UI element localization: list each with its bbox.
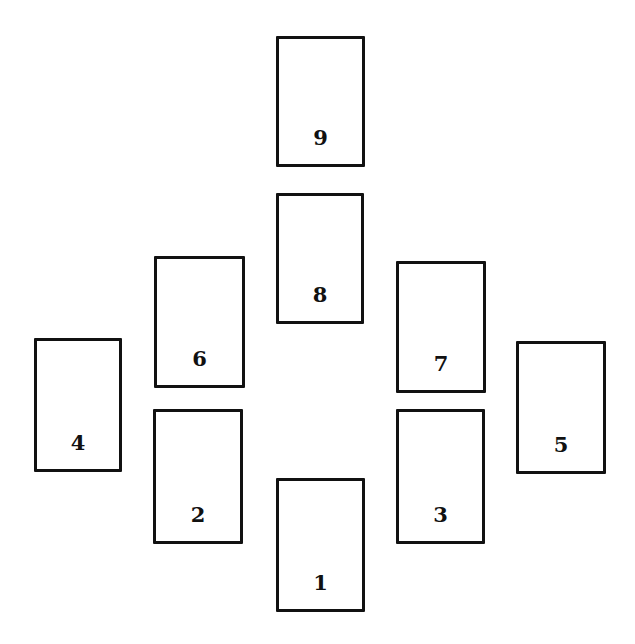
card-number-label: 8 xyxy=(279,284,361,305)
card-4: 4 xyxy=(34,338,122,472)
card-9: 9 xyxy=(276,36,365,167)
card-2: 2 xyxy=(153,409,243,544)
card-number-label: 9 xyxy=(279,127,362,148)
card-number-label: 7 xyxy=(399,353,483,374)
card-spread: 9 8 6 7 4 5 2 3 1 xyxy=(0,0,635,644)
card-7: 7 xyxy=(396,261,486,393)
card-5: 5 xyxy=(516,341,606,474)
card-1: 1 xyxy=(276,478,365,612)
card-8: 8 xyxy=(276,193,364,324)
card-number-label: 4 xyxy=(37,432,119,453)
card-6: 6 xyxy=(154,256,245,388)
card-number-label: 1 xyxy=(279,572,362,593)
card-number-label: 5 xyxy=(519,434,603,455)
card-number-label: 6 xyxy=(157,348,242,369)
card-number-label: 2 xyxy=(156,504,240,525)
card-3: 3 xyxy=(396,409,485,544)
card-number-label: 3 xyxy=(399,504,482,525)
